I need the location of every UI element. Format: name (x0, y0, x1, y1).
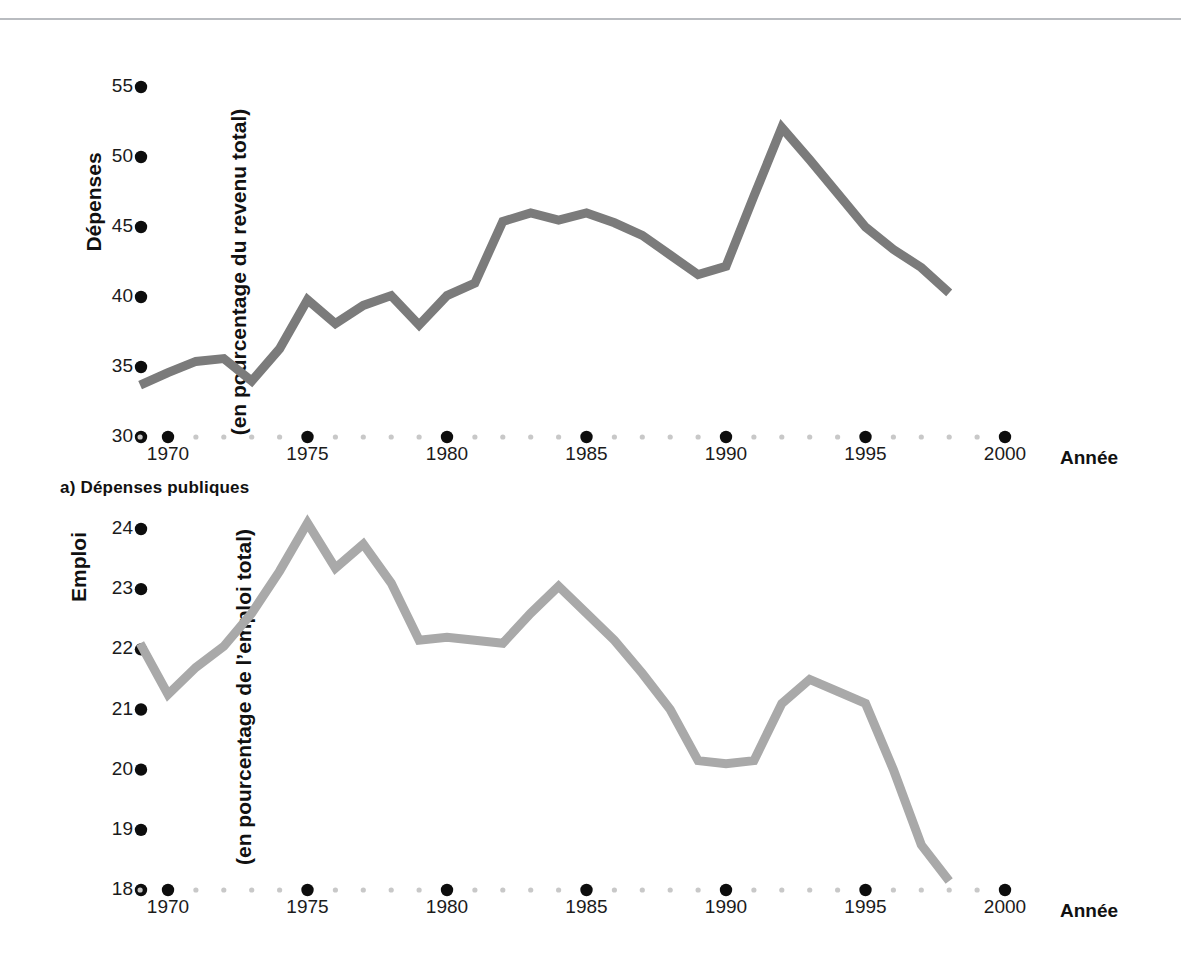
series-line (140, 128, 949, 386)
x-axis-minor-dot (333, 434, 338, 439)
y-axis-tick-label: 20 (73, 758, 133, 780)
y-axis-tick-label: 19 (73, 818, 133, 840)
y-axis-tick-label: 18 (73, 878, 133, 900)
x-axis-minor-dot (891, 887, 896, 892)
x-axis-tick-label: 1995 (826, 896, 906, 918)
chart-b-plot-area (0, 495, 1181, 965)
x-axis-minor-dot (333, 887, 338, 892)
x-axis-minor-dot (361, 434, 366, 439)
x-axis-minor-dot (277, 434, 282, 439)
x-axis-tick-label: 1990 (686, 443, 766, 465)
x-axis-minor-dot (779, 887, 784, 892)
chart-panel-depenses: Dépenses (en pourcentage du revenu total… (0, 30, 1181, 490)
x-axis-minor-dot (277, 887, 282, 892)
x-axis-minor-dot (528, 434, 533, 439)
y-axis-tick-dot (135, 583, 147, 595)
x-axis-minor-dot (389, 887, 394, 892)
y-axis-tick-dot (135, 221, 147, 233)
x-axis-minor-dot (696, 434, 701, 439)
x-axis-minor-dot (138, 434, 143, 439)
chart-a-x-axis-title: Année (1060, 447, 1118, 469)
x-axis-tick-label: 1970 (128, 896, 208, 918)
x-axis-tick-dot (999, 884, 1011, 896)
x-axis-minor-dot (556, 887, 561, 892)
x-axis-tick-label: 1970 (128, 443, 208, 465)
x-axis-minor-dot (500, 434, 505, 439)
y-axis-tick-label: 45 (73, 215, 133, 237)
x-axis-minor-dot (361, 887, 366, 892)
x-axis-tick-dot (580, 431, 592, 443)
x-axis-tick-dot (999, 431, 1011, 443)
x-axis-tick-dot (441, 884, 453, 896)
y-axis-tick-dot (135, 763, 147, 775)
x-axis-minor-dot (835, 434, 840, 439)
x-axis-tick-dot (580, 884, 592, 896)
chart-b-x-axis-title: Année (1060, 900, 1118, 922)
x-axis-minor-dot (835, 887, 840, 892)
chart-a-plot-area (0, 30, 1181, 490)
x-axis-minor-dot (779, 434, 784, 439)
y-axis-tick-label: 21 (73, 698, 133, 720)
x-axis-minor-dot (221, 887, 226, 892)
x-axis-tick-label: 1975 (268, 896, 348, 918)
x-axis-minor-dot (472, 434, 477, 439)
x-axis-minor-dot (138, 887, 143, 892)
x-axis-tick-dot (301, 884, 313, 896)
figure-page: Dépenses (en pourcentage du revenu total… (0, 0, 1181, 968)
x-axis-tick-dot (859, 431, 871, 443)
x-axis-minor-dot (751, 434, 756, 439)
x-axis-minor-dot (500, 887, 505, 892)
x-axis-minor-dot (919, 887, 924, 892)
x-axis-minor-dot (472, 887, 477, 892)
x-axis-tick-label: 1985 (547, 896, 627, 918)
x-axis-tick-label: 1990 (686, 896, 766, 918)
x-axis-minor-dot (891, 434, 896, 439)
x-axis-tick-label: 1980 (407, 896, 487, 918)
chart-panel-emploi: Emploi (en pourcentage de l’emploi total… (0, 495, 1181, 965)
x-axis-minor-dot (668, 434, 673, 439)
x-axis-minor-dot (668, 887, 673, 892)
x-axis-tick-label: 2000 (965, 896, 1045, 918)
x-axis-minor-dot (919, 434, 924, 439)
x-axis-tick-label: 1980 (407, 443, 487, 465)
x-axis-tick-label: 2000 (965, 443, 1045, 465)
series-line (140, 523, 949, 881)
x-axis-tick-dot (859, 884, 871, 896)
x-axis-minor-dot (947, 434, 952, 439)
x-axis-minor-dot (249, 434, 254, 439)
x-axis-minor-dot (193, 434, 198, 439)
x-axis-minor-dot (221, 434, 226, 439)
y-axis-tick-label: 24 (73, 517, 133, 539)
y-axis-tick-dot (135, 151, 147, 163)
x-axis-tick-dot (720, 431, 732, 443)
x-axis-minor-dot (528, 887, 533, 892)
x-axis-tick-dot (441, 431, 453, 443)
x-axis-minor-dot (640, 434, 645, 439)
x-axis-minor-dot (751, 887, 756, 892)
x-axis-minor-dot (975, 434, 980, 439)
y-axis-tick-label: 35 (73, 355, 133, 377)
y-axis-tick-dot (135, 523, 147, 535)
y-axis-tick-label: 23 (73, 577, 133, 599)
x-axis-minor-dot (975, 887, 980, 892)
y-axis-tick-label: 30 (73, 425, 133, 447)
y-axis-tick-dot (135, 824, 147, 836)
y-axis-tick-dot (135, 361, 147, 373)
x-axis-tick-label: 1975 (268, 443, 348, 465)
y-axis-tick-label: 22 (73, 637, 133, 659)
x-axis-minor-dot (417, 434, 422, 439)
x-axis-minor-dot (249, 887, 254, 892)
x-axis-minor-dot (947, 887, 952, 892)
x-axis-tick-dot (720, 884, 732, 896)
x-axis-minor-dot (556, 434, 561, 439)
y-axis-tick-dot (135, 81, 147, 93)
x-axis-minor-dot (807, 887, 812, 892)
x-axis-minor-dot (640, 887, 645, 892)
x-axis-tick-dot (162, 884, 174, 896)
x-axis-minor-dot (612, 434, 617, 439)
y-axis-tick-label: 50 (73, 145, 133, 167)
x-axis-tick-label: 1985 (547, 443, 627, 465)
y-axis-tick-label: 55 (73, 75, 133, 97)
x-axis-minor-dot (696, 887, 701, 892)
x-axis-tick-dot (162, 431, 174, 443)
